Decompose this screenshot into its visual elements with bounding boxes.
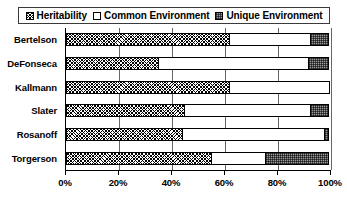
bar-segment: [229, 33, 311, 46]
bar-segment: [182, 128, 325, 141]
category-axis: BertelsonDeFonsecaKallmannSlaterRosanoff…: [0, 28, 62, 170]
bar-segment: [310, 104, 329, 117]
bar-track: [66, 104, 331, 117]
legend-entry-heritability: Heritability: [23, 11, 90, 21]
x-axis-tick: [171, 170, 172, 175]
bar-segment: [158, 57, 309, 70]
category-label: Torgerson: [0, 146, 62, 170]
bar-segment: [66, 104, 185, 117]
category-label: Bertelson: [0, 28, 62, 52]
x-axis-tick: [330, 170, 331, 175]
x-axis-tick-label: 0%: [58, 177, 72, 188]
bar-segment: [229, 81, 330, 94]
x-axis-line: [65, 170, 331, 171]
bar-track: [66, 57, 331, 70]
bar-row: [66, 28, 331, 52]
gridline: [331, 28, 332, 170]
x-axis-tick-label: 40%: [162, 177, 181, 188]
category-label: Kallmann: [0, 75, 62, 99]
chart-legend: Heritability Common Environment Unique E…: [18, 7, 330, 24]
bar-row: [66, 52, 331, 76]
bar-track: [66, 152, 331, 165]
bar-segment: [66, 57, 159, 70]
bar-segment: [324, 128, 329, 141]
legend-entry-common-environment: Common Environment: [90, 11, 212, 21]
stacked-bar-chart: Heritability Common Environment Unique E…: [0, 0, 347, 201]
x-axis-tick: [277, 170, 278, 175]
legend-label-unique-environment: Unique Environment: [226, 11, 322, 21]
x-axis-tick-label: 80%: [268, 177, 287, 188]
x-axis-tick-label: 100%: [318, 177, 342, 188]
x-axis-tick-label: 60%: [215, 177, 234, 188]
legend-label-common-environment: Common Environment: [104, 11, 209, 21]
bar-segment: [211, 152, 267, 165]
bar-row: [66, 146, 331, 170]
bar-row: [66, 123, 331, 147]
bar-track: [66, 81, 331, 94]
bar-row: [66, 99, 331, 123]
bar-segment: [308, 57, 329, 70]
x-axis-tick-labels: 0%20%40%60%80%100%: [0, 177, 347, 191]
bar-series-group: [66, 28, 331, 170]
plot-area: [65, 28, 331, 170]
legend-swatch-common-environment-icon: [93, 12, 101, 20]
legend-entry-unique-environment: Unique Environment: [212, 11, 325, 21]
x-axis-tick: [224, 170, 225, 175]
bar-segment: [184, 104, 311, 117]
x-axis-tick: [65, 170, 66, 175]
bar-segment: [310, 33, 329, 46]
category-label: DeFonseca: [0, 52, 62, 76]
bar-segment: [66, 81, 230, 94]
legend-swatch-unique-environment-icon: [215, 12, 223, 20]
bar-track: [66, 33, 331, 46]
bar-row: [66, 75, 331, 99]
plot-wrapper: BertelsonDeFonsecaKallmannSlaterRosanoff…: [0, 28, 347, 201]
x-axis-tick: [118, 170, 119, 175]
bar-segment: [66, 33, 230, 46]
bar-track: [66, 128, 331, 141]
x-axis-tick-label: 20%: [109, 177, 128, 188]
bar-segment: [265, 152, 329, 165]
bar-segment: [66, 128, 183, 141]
category-label: Rosanoff: [0, 123, 62, 147]
legend-label-heritability: Heritability: [37, 11, 87, 21]
bar-segment: [66, 152, 212, 165]
legend-swatch-heritability-icon: [26, 12, 34, 20]
category-label: Slater: [0, 99, 62, 123]
